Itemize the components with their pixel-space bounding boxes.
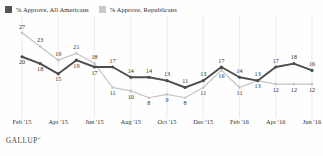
data-label: 15 [55,76,61,82]
data-label: 13 [164,71,170,77]
chart-legend: % Approve, All Americans % Approve, Repu… [5,3,177,15]
data-label: 13 [255,71,261,77]
data-label: 21 [73,44,79,50]
plot-area: 2018151917171414131113171413171816272319… [0,16,323,118]
data-label: 14 [128,68,134,74]
data-point [129,76,132,79]
data-point [129,90,132,93]
data-point [292,62,295,65]
data-point [166,93,169,96]
x-axis-tick-label: Jun '15 [85,118,103,125]
data-label: 12 [273,87,279,93]
data-label: 11 [182,78,188,84]
x-axis-tick-label: Feb '15 [12,118,31,125]
data-label: 17 [273,58,279,64]
data-label: 18 [37,66,43,72]
data-point [111,65,114,68]
data-label: 11 [200,90,206,96]
gallup-approval-line-chart: % Approve, All Americans % Approve, Repu… [0,0,323,156]
x-axis-tick-label: Dec '15 [193,118,213,125]
data-label: 17 [91,70,97,76]
x-axis-tick-label: Apr '16 [266,118,286,125]
data-label: 16 [309,61,315,67]
x-axis-tick-label: Aug '15 [120,118,141,125]
brand-text: GALLUP [6,137,38,145]
data-point [184,86,187,89]
data-label: 18 [291,54,297,60]
data-point [111,86,114,89]
data-point [311,83,314,86]
data-point [256,79,259,82]
x-axis-tick-label: Jun '16 [303,118,321,125]
data-label: 14 [236,68,242,74]
data-label: 17 [110,58,116,64]
data-label: 23 [37,37,43,43]
data-label: 19 [73,63,79,69]
legend-item-republicans[interactable]: % Approve, Republicans [99,6,177,13]
data-label: 11 [110,90,116,96]
data-label: 20 [19,59,25,65]
x-axis-tick-label: Oct '15 [158,118,177,125]
data-point [147,76,150,79]
data-label: 27 [19,24,25,30]
data-label: 18 [91,54,97,60]
data-point [20,55,23,58]
x-axis: Feb '15Apr '15Jun '15Aug '15Oct '15Dec '… [0,118,323,132]
data-point [184,96,187,99]
square-swatch-dark-icon [5,6,12,13]
data-point [57,59,60,62]
data-point [148,96,151,99]
legend-label-republicans: % Approve, Republicans [110,6,177,13]
data-point [75,59,78,62]
data-point [293,83,296,86]
data-label: 10 [128,94,134,100]
gallup-brand-mark: GALLUP® [6,136,41,145]
data-label: 17 [218,58,224,64]
legend-item-all-americans[interactable]: % Approve, All Americans [5,6,89,13]
data-label: 13 [200,71,206,77]
data-label: 12 [291,87,297,93]
data-point [39,45,42,48]
data-point [39,62,42,65]
data-point [165,79,168,82]
data-point [202,79,205,82]
data-point [202,86,205,89]
data-point [238,76,241,79]
data-point [274,65,277,68]
data-label: 8 [147,100,150,106]
data-label: 9 [165,97,168,103]
data-point [238,86,241,89]
data-point [93,62,96,65]
chart-canvas: 2018151917171414131113171413171816272319… [0,16,323,118]
data-point [93,65,96,68]
data-label: 19 [55,51,61,57]
data-point [220,65,223,68]
square-swatch-light-icon [99,6,106,13]
data-point [57,72,60,75]
data-point [310,69,313,72]
data-label: 16 [218,73,224,79]
registered-mark: ® [38,136,42,141]
data-point [274,83,277,86]
data-point [75,52,78,55]
data-label: 8 [184,100,187,106]
x-axis-tick-label: Feb '16 [230,118,249,125]
data-label: 13 [255,83,261,89]
x-axis-tick-label: Apr '15 [48,118,68,125]
data-point [21,32,24,35]
data-point [220,69,223,72]
data-label: 11 [237,90,243,96]
data-label: 12 [309,87,315,93]
legend-label-all-americans: % Approve, All Americans [16,6,89,13]
data-label: 14 [146,68,152,74]
